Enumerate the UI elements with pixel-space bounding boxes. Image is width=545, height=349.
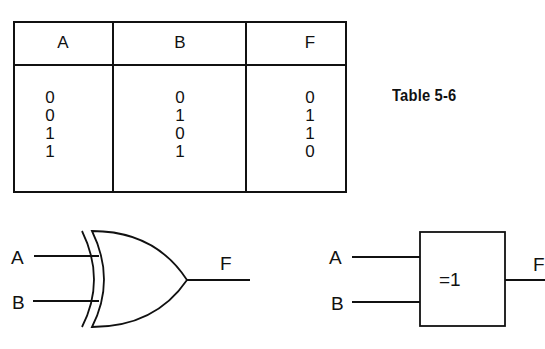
iec-gate-box [420, 232, 505, 326]
gate-diagrams: A B F A B F =1 [0, 0, 545, 349]
xor-output-label: F [220, 253, 232, 274]
xor-gate-body [92, 231, 187, 327]
xor-input-b-label: B [12, 292, 25, 313]
xor-input-a-label: A [11, 247, 24, 268]
iec-gate-symbol: =1 [439, 269, 461, 290]
iec-input-a-label: A [329, 247, 342, 268]
xor-extra-curve [82, 231, 94, 327]
iec-output-label: F [533, 254, 545, 275]
xor-gate-distinctive [33, 231, 250, 327]
iec-input-b-label: B [331, 293, 344, 314]
